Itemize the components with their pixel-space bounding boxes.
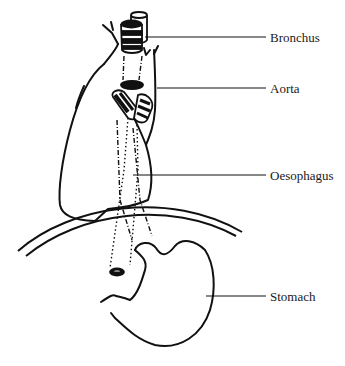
stomach-outline [101,241,214,346]
label-stomach: Stomach [270,290,316,303]
oesophagus-end [110,269,124,276]
aorta-rings [112,81,152,123]
leader-lines [133,37,266,296]
anatomy-drawing [0,0,345,366]
aorta-arch-outline [104,44,118,64]
diagram-canvas: Bronchus Aorta Oesophagus Stomach [0,0,345,366]
bronchus-cylinders [121,12,147,53]
label-oesophagus: Oesophagus [270,169,334,182]
label-bronchus: Bronchus [270,31,320,44]
label-aorta: Aorta [270,82,300,95]
left-vessel-v [103,25,118,44]
